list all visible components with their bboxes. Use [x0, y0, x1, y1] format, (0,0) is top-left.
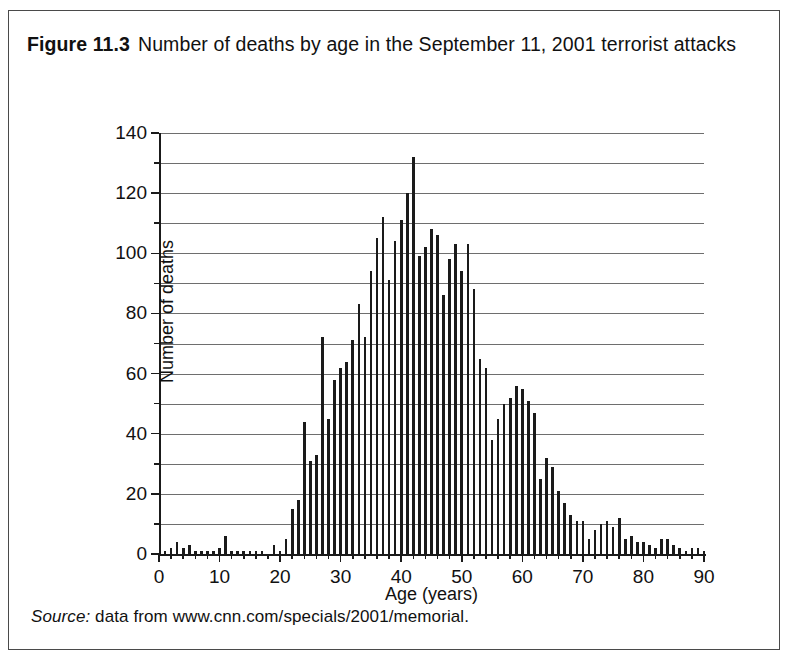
gridline	[159, 193, 704, 194]
bar	[454, 244, 457, 554]
bar	[309, 461, 312, 554]
bar	[527, 401, 530, 554]
x-axis-tick-minor	[291, 554, 293, 559]
bar	[533, 413, 536, 554]
bar	[291, 509, 294, 554]
bar	[358, 304, 361, 554]
x-axis-tick-major	[279, 554, 281, 562]
x-axis-tick-minor	[594, 554, 596, 559]
bar	[400, 220, 403, 554]
x-axis-tick-minor	[485, 554, 487, 559]
x-axis-tick-minor	[364, 554, 366, 559]
y-axis-tick-label: 20	[126, 483, 147, 505]
x-axis-tick-minor	[195, 554, 197, 559]
bar	[412, 157, 415, 554]
x-axis-tick-major	[643, 554, 645, 562]
bar	[327, 419, 330, 554]
chart-canvas: 020406080100120140 0102030405060708090 N…	[9, 106, 781, 601]
x-axis-tick-minor	[425, 554, 427, 559]
bar	[424, 247, 427, 554]
bar	[557, 491, 560, 554]
bar	[376, 238, 379, 554]
y-axis-tick-label: 60	[126, 363, 147, 385]
y-axis-tick-major	[151, 493, 159, 495]
bar	[539, 479, 542, 554]
bar	[460, 271, 463, 554]
x-axis-tick-major	[582, 554, 584, 562]
figure-caption: Figure 11.3Number of deaths by age in th…	[27, 31, 747, 58]
x-axis-tick-minor	[182, 554, 184, 559]
bar	[370, 271, 373, 554]
bar	[515, 386, 518, 554]
figure-caption-text: Number of deaths by age in the September…	[138, 33, 736, 55]
bar	[388, 280, 391, 554]
bar	[479, 359, 482, 554]
y-axis-tick-label: 100	[115, 242, 147, 264]
bar	[448, 259, 451, 554]
x-axis-tick-minor	[449, 554, 451, 559]
x-axis-tick-minor	[655, 554, 657, 559]
x-axis-title: Age (years)	[159, 584, 704, 605]
bar	[364, 337, 367, 554]
bar	[600, 524, 603, 554]
y-axis-tick-minor	[154, 222, 159, 224]
bar	[339, 368, 342, 554]
bar	[551, 467, 554, 554]
y-axis-tick-label: 0	[136, 543, 147, 565]
y-axis-tick-major	[151, 433, 159, 435]
bar	[473, 289, 476, 554]
figure-frame: Figure 11.3Number of deaths by age in th…	[8, 10, 780, 650]
y-axis-tick-label: 120	[115, 182, 147, 204]
gridline	[159, 223, 704, 224]
y-axis-tick-minor	[154, 403, 159, 405]
bar	[606, 521, 609, 554]
x-axis-tick-minor	[304, 554, 306, 559]
y-axis-tick-major	[151, 132, 159, 134]
x-axis-tick-minor	[207, 554, 209, 559]
x-axis-tick-minor	[437, 554, 439, 559]
bar	[430, 229, 433, 554]
y-axis-tick-label: 140	[115, 122, 147, 144]
bar	[485, 368, 488, 554]
bar	[563, 503, 566, 554]
bar	[442, 295, 445, 554]
bar	[321, 337, 324, 554]
y-axis-tick-label: 40	[126, 423, 147, 445]
bar	[642, 542, 645, 554]
bar	[612, 527, 615, 554]
bar	[648, 545, 651, 554]
bar	[497, 419, 500, 554]
bar	[285, 539, 288, 554]
x-axis-tick-major	[703, 554, 705, 562]
bar	[297, 500, 300, 554]
bar	[273, 545, 276, 554]
x-axis-tick-minor	[328, 554, 330, 559]
x-axis-tick-minor	[388, 554, 390, 559]
source-value: data from www.cnn.com/specials/2001/memo…	[90, 607, 469, 626]
x-axis-tick-major	[461, 554, 463, 562]
bar	[224, 536, 227, 554]
x-axis-tick-minor	[546, 554, 548, 559]
bar	[594, 530, 597, 554]
gridline	[159, 163, 704, 164]
bar	[521, 389, 524, 554]
bar	[406, 193, 409, 554]
bar	[503, 404, 506, 554]
bar	[345, 362, 348, 554]
figure-number: Figure 11.3	[27, 33, 130, 55]
y-axis-tick-minor	[154, 463, 159, 465]
bar	[303, 422, 306, 554]
x-axis-tick-minor	[691, 554, 693, 559]
x-axis-line	[159, 554, 706, 556]
bar	[588, 539, 591, 554]
x-axis-tick-minor	[618, 554, 620, 559]
bar	[436, 235, 439, 554]
x-axis-tick-minor	[558, 554, 560, 559]
bar	[630, 536, 633, 554]
x-axis-tick-minor	[534, 554, 536, 559]
x-axis-tick-major	[158, 554, 160, 562]
x-axis-tick-major	[400, 554, 402, 562]
plot-area: 020406080100120140 0102030405060708090 N…	[159, 133, 704, 554]
gridline	[159, 133, 704, 134]
x-axis-tick-minor	[667, 554, 669, 559]
